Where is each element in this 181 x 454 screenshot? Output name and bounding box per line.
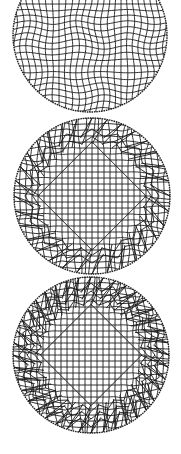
mesh-panels-canvas <box>0 0 181 454</box>
mesh-grid <box>2 0 177 123</box>
mesh-deformation-figure <box>0 0 181 454</box>
mesh-panel-2 <box>6 110 178 282</box>
mesh-grid <box>6 110 178 282</box>
mesh-panel-3 <box>5 269 178 442</box>
mesh-grid <box>5 269 178 442</box>
mesh-panel-1 <box>2 0 177 123</box>
